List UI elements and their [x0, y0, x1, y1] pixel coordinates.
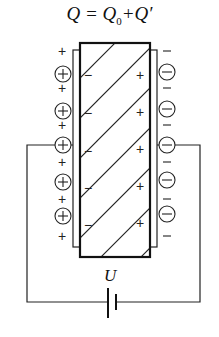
svg-text:+: +	[136, 178, 144, 194]
svg-text:−: −	[84, 67, 92, 83]
battery-voltage-label: U	[104, 266, 116, 286]
svg-text:+: +	[58, 228, 66, 244]
svg-text:−: −	[84, 180, 92, 196]
svg-text:+: +	[136, 104, 144, 120]
svg-text:−: −	[84, 105, 92, 121]
svg-text:+: +	[58, 191, 66, 207]
svg-text:−: −	[84, 143, 92, 159]
svg-text:+: +	[136, 67, 144, 83]
svg-text:+: +	[58, 43, 66, 59]
svg-text:+: +	[136, 215, 144, 231]
battery-icon	[108, 288, 116, 318]
capacitor-diagram: − − − − − + + + + + + + + + + +	[0, 0, 219, 337]
svg-text:+: +	[58, 154, 66, 170]
svg-text:+: +	[136, 141, 144, 157]
svg-text:−: −	[84, 217, 92, 233]
